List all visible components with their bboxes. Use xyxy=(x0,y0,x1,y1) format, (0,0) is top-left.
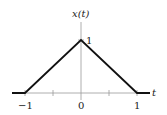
y-axis-label: x(t) xyxy=(72,8,90,19)
tick-label-neg1: −1 xyxy=(18,100,33,111)
tick-label-0: 0 xyxy=(78,100,84,111)
x-axis-label: t xyxy=(152,87,157,98)
peak-label: 1 xyxy=(86,35,92,46)
tick-label-1: 1 xyxy=(134,100,140,111)
triangle-pulse-plot: x(t) t 1 −1 0 1 xyxy=(0,0,167,115)
